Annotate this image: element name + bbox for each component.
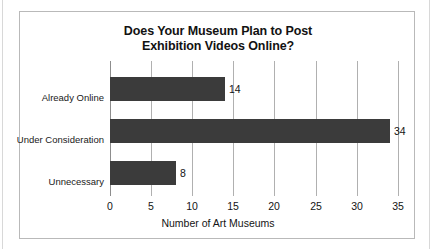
- bar-under-consideration: [110, 119, 390, 143]
- category-label-unnecessary: Unnecessary: [49, 176, 104, 187]
- bar-value-under-consideration: 34: [394, 125, 406, 137]
- x-axis-title: Number of Art Museums: [20, 217, 416, 229]
- y-axis-category-labels: Already Online Under Consideration Unnec…: [20, 61, 104, 196]
- page-edge-line-left: [2, 0, 3, 249]
- x-tick-label-25: 25: [301, 200, 331, 212]
- chart-page: Does Your Museum Plan to Post Exhibition…: [0, 0, 432, 249]
- x-tick-label-20: 20: [259, 200, 289, 212]
- chart-title-line-1: Does Your Museum Plan to Post: [20, 24, 416, 39]
- category-label-already-online: Already Online: [42, 92, 104, 103]
- x-tick-label-0: 0: [95, 200, 125, 212]
- chart-frame: Does Your Museum Plan to Post Exhibition…: [19, 11, 415, 239]
- category-label-under-consideration: Under Consideration: [17, 134, 104, 145]
- bar-value-already-online: 14: [229, 83, 241, 95]
- x-tick-label-15: 15: [218, 200, 248, 212]
- plot-area: 14 34 8: [110, 61, 398, 196]
- chart-title-line-2: Exhibition Videos Online?: [20, 39, 416, 54]
- x-axis-tick-labels: 0 5 10 15 20 25 30 35: [110, 200, 398, 214]
- x-tick-label-30: 30: [342, 200, 372, 212]
- page-edge-line-right: [429, 0, 430, 249]
- x-tick-label-10: 10: [177, 200, 207, 212]
- chart-title: Does Your Museum Plan to Post Exhibition…: [20, 24, 416, 54]
- bar-already-online: [110, 77, 225, 101]
- bar-value-unnecessary: 8: [180, 167, 186, 179]
- x-tick-label-35: 35: [383, 200, 413, 212]
- x-tick-label-5: 5: [136, 200, 166, 212]
- bar-unnecessary: [110, 161, 176, 185]
